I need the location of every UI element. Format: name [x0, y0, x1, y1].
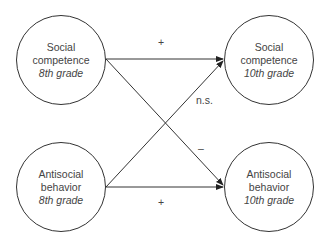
node-label-line1: Antisocial	[39, 168, 84, 181]
edge-label-ab8-sc10: n.s.	[196, 94, 213, 106]
node-label-line1: Social	[47, 41, 76, 54]
node-label-line2: competence	[32, 54, 89, 67]
node-label-line2: behavior	[41, 181, 81, 194]
node-label-line1: Antisocial	[247, 168, 292, 181]
node-antisocial-behavior-10th: Antisocial behavior 10th grade	[224, 142, 314, 232]
node-grade: 8th grade	[39, 67, 83, 80]
node-grade: 8th grade	[39, 194, 83, 207]
node-antisocial-behavior-8th: Antisocial behavior 8th grade	[16, 142, 106, 232]
edge-label-ab8-ab10: +	[158, 196, 164, 208]
arrow-sc8-to-ab10	[106, 59, 223, 185]
node-label-line1: Social	[255, 41, 284, 54]
node-grade: 10th grade	[244, 67, 294, 80]
edge-label-sc8-sc10: +	[158, 36, 164, 48]
arrow-ab8-to-sc10	[106, 61, 223, 187]
node-label-line2: behavior	[249, 181, 289, 194]
node-grade: 10th grade	[244, 194, 294, 207]
node-social-competence-10th: Social competence 10th grade	[224, 15, 314, 105]
node-label-line2: competence	[240, 54, 297, 67]
node-social-competence-8th: Social competence 8th grade	[16, 15, 106, 105]
edge-label-sc8-ab10: –	[198, 142, 204, 154]
